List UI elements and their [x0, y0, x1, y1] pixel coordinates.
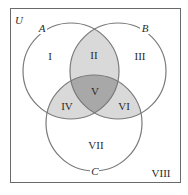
set-a-label: A — [38, 22, 46, 34]
set-b-label: B — [142, 22, 149, 34]
region-viii-label: VIII — [152, 167, 171, 179]
region-iii-label: III — [135, 50, 146, 62]
set-c-label: C — [91, 165, 99, 177]
region-i-label: I — [48, 50, 52, 62]
region-v-label: V — [91, 85, 99, 97]
universe-label: U — [15, 14, 24, 26]
region-iv-label: IV — [61, 100, 73, 112]
region-ii-label: II — [90, 49, 98, 61]
venn-diagram: A B C U I II III IV V VI VII VIII — [0, 0, 188, 195]
region-vii-label: VII — [88, 139, 104, 151]
region-vi-label: VI — [118, 100, 130, 112]
